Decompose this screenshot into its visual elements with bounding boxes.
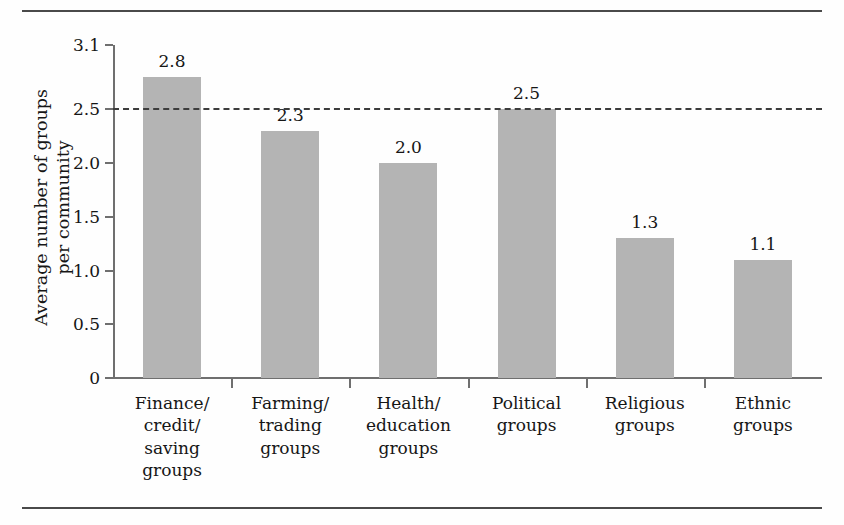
y-tick-mark <box>105 323 113 325</box>
y-tick-label: 2.5 <box>0 99 100 119</box>
x-axis-category-label-line: groups <box>113 459 231 481</box>
reference-line-2-5 <box>113 108 822 110</box>
x-axis-category-label: Religiousgroups <box>586 392 704 437</box>
x-axis-category-label-line: education <box>349 414 467 436</box>
x-axis-category-label-line: Religious <box>586 392 704 414</box>
x-axis-separator-tick <box>468 379 470 388</box>
x-axis-category-label-line: groups <box>586 414 704 436</box>
x-axis-separator-tick <box>231 379 233 388</box>
bar <box>143 77 201 378</box>
bar-value-label: 1.3 <box>631 212 658 232</box>
x-axis-category-label-line: Health/ <box>349 392 467 414</box>
y-tick-mark <box>105 216 113 218</box>
x-axis-separator-tick <box>704 379 706 388</box>
y-tick-label: 1.0 <box>0 261 100 281</box>
x-axis-category-label-line: saving <box>113 437 231 459</box>
top-rule <box>22 10 822 12</box>
bar <box>734 260 792 378</box>
y-axis-line <box>113 45 115 379</box>
chart-figure: Average number of groups per community 0… <box>0 0 844 525</box>
x-axis-category-label-line: groups <box>349 437 467 459</box>
y-tick-mark <box>105 270 113 272</box>
y-tick-label: 3.1 <box>0 35 100 55</box>
x-axis-category-label: Health/educationgroups <box>349 392 467 459</box>
y-tick-mark <box>105 44 113 46</box>
y-tick-label: 1.5 <box>0 207 100 227</box>
x-axis-separator-tick <box>349 379 351 388</box>
bar <box>261 131 319 378</box>
bar <box>379 163 437 378</box>
bottom-rule <box>22 507 822 509</box>
y-tick-label: 0.5 <box>0 314 100 334</box>
x-axis-category-label: Farming/tradinggroups <box>231 392 349 459</box>
x-axis-category-label-line: groups <box>468 414 586 436</box>
x-axis-category-label: Ethnicgroups <box>704 392 822 437</box>
y-tick-label: 2.0 <box>0 153 100 173</box>
x-axis-category-label-line: groups <box>231 437 349 459</box>
x-axis-category-label-line: Finance/ <box>113 392 231 414</box>
bar-value-label: 2.0 <box>395 137 422 157</box>
y-tick-label: 0 <box>0 368 100 388</box>
x-axis-category-label-line: credit/ <box>113 414 231 436</box>
bar <box>498 109 556 378</box>
x-axis-category-label-line: Political <box>468 392 586 414</box>
x-axis-category-label-line: trading <box>231 414 349 436</box>
x-axis-separator-tick <box>586 379 588 388</box>
x-axis-category-label: Politicalgroups <box>468 392 586 437</box>
bar-value-label: 2.5 <box>513 83 540 103</box>
x-axis-category-label-line: Ethnic <box>704 392 822 414</box>
y-tick-mark <box>105 108 113 110</box>
x-axis-category-label-line: groups <box>704 414 822 436</box>
x-axis-category-label-line: Farming/ <box>231 392 349 414</box>
x-axis-category-label: Finance/credit/savinggroups <box>113 392 231 482</box>
bar <box>616 238 674 378</box>
bar-value-label: 2.8 <box>159 51 186 71</box>
y-tick-mark <box>105 377 113 379</box>
bar-value-label: 1.1 <box>749 234 776 254</box>
y-tick-mark <box>105 162 113 164</box>
